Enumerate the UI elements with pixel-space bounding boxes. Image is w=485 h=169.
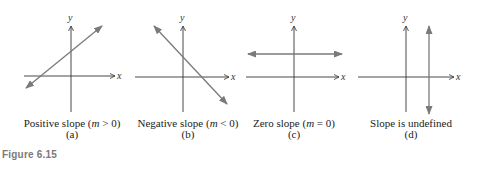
y-axis-label: y [290,12,296,23]
caption-b-tag: (b) [130,129,246,140]
panel-a-graph: x y [24,12,122,112]
caption-c: Zero slope (m = 0) (c) [244,118,344,140]
panel-d-graph: x y [358,12,461,114]
caption-a-prefix: Positive slope ( [24,117,92,129]
panel-b-graph: x y [135,12,236,112]
caption-d: Slope is undefined (d) [361,118,461,140]
negative-slope-line [154,26,227,104]
caption-b-suffix: < 0) [218,117,239,129]
caption-a-tag: (a) [14,129,130,140]
caption-d-tag: (d) [361,129,461,140]
caption-a-suffix: > 0) [99,117,120,129]
panel-c-graph: x y [246,12,346,112]
caption-a: Positive slope (m > 0) (a) [14,118,130,140]
y-axis-label: y [402,12,408,23]
y-axis-label: y [67,12,73,23]
caption-b-prefix: Negative slope ( [138,117,210,129]
x-axis-label: x [230,71,236,82]
x-axis-label: x [340,71,346,82]
caption-c-var: m [306,117,314,129]
x-axis-label: x [455,71,461,82]
caption-b-var: m [210,117,218,129]
caption-c-suffix: = 0) [314,117,335,129]
slope-figure: x y x y x y x y [0,0,485,169]
positive-slope-line [26,26,102,88]
caption-c-tag: (c) [244,129,344,140]
x-axis-label: x [116,70,122,81]
y-axis-label: y [179,12,185,23]
caption-b: Negative slope (m < 0) (b) [130,118,246,140]
figure-label: Figure 6.15 [2,149,57,160]
